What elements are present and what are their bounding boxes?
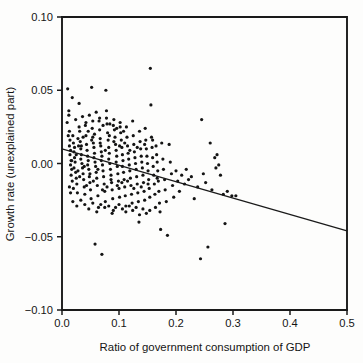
data-point: [85, 143, 88, 146]
data-point: [120, 181, 123, 184]
data-point: [66, 121, 69, 124]
data-point: [78, 130, 81, 133]
data-point: [90, 86, 93, 89]
data-point: [97, 119, 100, 122]
data-point: [127, 158, 130, 161]
data-point: [132, 143, 135, 146]
data-point: [143, 199, 146, 202]
data-point: [75, 182, 78, 185]
data-point: [93, 152, 96, 155]
data-point: [162, 168, 165, 171]
data-point: [202, 172, 205, 175]
data-point: [92, 146, 95, 149]
data-point: [72, 187, 75, 190]
data-point: [142, 190, 145, 193]
data-point: [174, 169, 177, 172]
data-point: [116, 172, 119, 175]
data-point: [121, 153, 124, 156]
data-point: [103, 182, 106, 185]
data-point: [136, 146, 139, 149]
data-point: [124, 204, 127, 207]
data-point: [156, 169, 159, 172]
data-point: [135, 206, 138, 209]
data-point: [76, 191, 79, 194]
data-point: [71, 96, 74, 99]
data-point: [99, 144, 102, 147]
data-point: [70, 159, 73, 162]
data-point: [74, 160, 77, 163]
data-point: [107, 146, 110, 149]
data-point: [106, 131, 109, 134]
data-point: [85, 149, 88, 152]
data-point: [71, 179, 74, 182]
data-point: [67, 134, 70, 137]
data-point: [83, 165, 86, 168]
data-point: [172, 196, 175, 199]
data-point: [83, 193, 86, 196]
data-point: [180, 174, 183, 177]
data-point: [154, 144, 157, 147]
data-point: [135, 175, 138, 178]
data-point: [99, 203, 102, 206]
axes: [62, 17, 347, 310]
data-point: [204, 181, 207, 184]
data-point: [115, 160, 118, 163]
data-point: [108, 122, 111, 125]
data-point: [81, 136, 84, 139]
data-point: [109, 168, 112, 171]
data-point: [101, 163, 104, 166]
data-point: [83, 203, 86, 206]
data-point: [111, 197, 114, 200]
data-point: [132, 134, 135, 137]
data-point: [96, 194, 99, 197]
data-point: [93, 160, 96, 163]
data-point: [234, 194, 237, 197]
data-point: [73, 156, 76, 159]
data-point: [136, 191, 139, 194]
data-point: [111, 188, 114, 191]
data-point: [92, 179, 95, 182]
data-point: [112, 118, 115, 121]
data-point: [89, 188, 92, 191]
data-point: [68, 185, 71, 188]
data-point: [107, 138, 110, 141]
data-point: [150, 146, 153, 149]
data-point: [115, 155, 118, 158]
data-point: [138, 213, 141, 216]
data-point: [68, 130, 71, 133]
data-point: [113, 136, 116, 139]
data-point: [160, 141, 163, 144]
data-point: [92, 141, 95, 144]
data-point: [153, 182, 156, 185]
data-point: [146, 169, 149, 172]
data-point: [88, 172, 91, 175]
data-point: [93, 133, 96, 136]
data-point: [104, 200, 107, 203]
data-point: [164, 188, 167, 191]
data-point: [73, 146, 76, 149]
data-point: [115, 127, 118, 130]
y-axis-title: Growth rate (unexplained part): [4, 87, 16, 242]
tick-marks: [57, 17, 347, 315]
data-point: [68, 153, 71, 156]
data-point: [199, 257, 202, 260]
data-point: [148, 196, 151, 199]
data-point: [128, 169, 131, 172]
data-point: [219, 174, 222, 177]
data-point: [95, 111, 98, 114]
data-point: [96, 168, 99, 171]
data-point: [165, 200, 168, 203]
data-point: [215, 153, 218, 156]
data-point: [124, 194, 127, 197]
data-point: [209, 141, 212, 144]
data-point: [170, 172, 173, 175]
data-point: [80, 144, 83, 147]
data-point: [93, 242, 96, 245]
data-point: [76, 169, 79, 172]
y-tick-labels: −0.10−0.050.000.050.10: [25, 11, 53, 316]
data-point: [158, 210, 161, 213]
data-point: [88, 114, 91, 117]
data-point: [128, 163, 131, 166]
data-point: [146, 162, 149, 165]
data-point: [84, 134, 87, 137]
